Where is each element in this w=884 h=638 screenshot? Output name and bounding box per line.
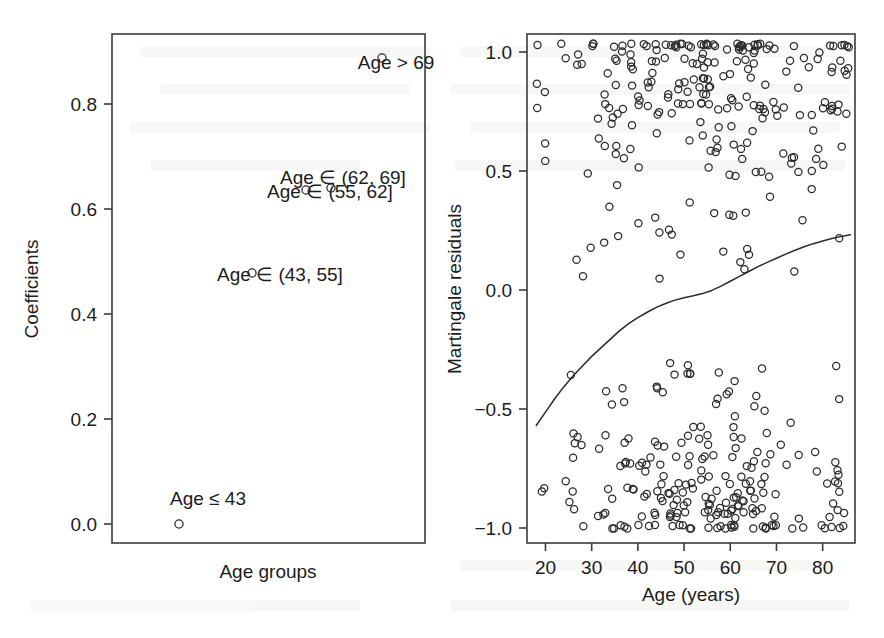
residual-point [704, 432, 711, 439]
figure-root: 0.0 0.2 0.4 0.6 0.8 Coefficients Age gro… [0, 0, 884, 638]
residual-point [740, 509, 747, 516]
residual-point [596, 445, 603, 452]
coefficient-label: Age ∈ (43, 55] [217, 264, 343, 285]
residual-point [534, 104, 541, 111]
residual-point [686, 100, 693, 107]
statistical-figure: 0.0 0.2 0.4 0.6 0.8 Coefficients Age gro… [0, 0, 884, 638]
residual-point [615, 233, 622, 240]
residual-point [722, 499, 729, 506]
residual-point [573, 256, 580, 263]
residual-point [614, 182, 621, 189]
residual-point [542, 140, 549, 147]
residual-point [686, 453, 693, 460]
left-y-tick-1: 0.2 [71, 409, 97, 430]
residual-point [742, 56, 749, 63]
residual-point [594, 115, 601, 122]
right-y-tick-0: 1.0 [486, 42, 512, 63]
residual-point [667, 360, 674, 367]
residual-point [643, 461, 650, 468]
residual-point [609, 495, 616, 502]
residual-point [627, 145, 634, 152]
residual-point [758, 481, 765, 488]
left-y-tick-4: 0.8 [71, 94, 97, 115]
coefficient-point [175, 520, 183, 528]
residual-point [761, 407, 768, 414]
residual-point [770, 98, 777, 105]
residual-point [735, 103, 742, 110]
residual-point [766, 173, 773, 180]
residual-point [724, 105, 731, 112]
residual-point [737, 259, 744, 266]
residual-point [649, 69, 656, 76]
residual-point [729, 97, 736, 104]
residual-point [730, 433, 737, 440]
residual-point [726, 480, 733, 487]
residual-point [750, 458, 757, 465]
residual-point [619, 385, 626, 392]
residual-point [738, 473, 745, 480]
residual-point [604, 70, 611, 77]
residual-point [762, 460, 769, 467]
left-plot-box [112, 34, 425, 543]
residual-point [671, 486, 678, 493]
residual-point [729, 454, 736, 461]
right-y-axis-title: Martingale residuals [444, 204, 465, 374]
residual-point [834, 507, 841, 514]
residual-point [608, 401, 615, 408]
residual-point [562, 478, 569, 485]
residual-point [682, 509, 689, 516]
residual-point [733, 58, 740, 65]
residual-point [763, 429, 770, 436]
residual-point [603, 388, 610, 395]
residual-point [601, 239, 608, 246]
residual-point [828, 68, 835, 75]
residual-point [780, 150, 787, 157]
residual-point [758, 365, 765, 372]
right-x-tick-label: 20 [535, 557, 556, 578]
residual-point [566, 498, 573, 505]
residual-point [673, 496, 680, 503]
residual-point [751, 495, 758, 502]
residual-point [783, 461, 790, 468]
residual-point [605, 485, 612, 492]
residual-point [837, 57, 844, 64]
right-x-tick-label: 50 [674, 557, 695, 578]
residual-point [578, 441, 585, 448]
residual-point [684, 432, 691, 439]
residual-point [760, 489, 767, 496]
residual-point [795, 515, 802, 522]
right-x-tick-label: 40 [627, 557, 648, 578]
right-x-tick-label: 30 [581, 557, 602, 578]
residual-point [808, 186, 815, 193]
residual-point [772, 491, 779, 498]
residual-point [580, 523, 587, 530]
residual-point [669, 522, 676, 529]
residual-point [574, 61, 581, 68]
residual-point [677, 251, 684, 258]
left-y-axis: 0.0 0.2 0.4 0.6 0.8 [71, 94, 112, 535]
residual-point [731, 378, 738, 385]
residual-point [711, 210, 718, 217]
residual-point [826, 513, 833, 520]
residual-point [713, 487, 720, 494]
residual-point [673, 453, 680, 460]
coefficient-label: Age ∈ (62, 69] [280, 167, 406, 188]
residual-point [799, 217, 806, 224]
right-y-tick-1: 0.5 [486, 161, 512, 182]
residual-point [835, 471, 842, 478]
residual-point [671, 371, 678, 378]
residual-point [674, 100, 681, 107]
residual-point [787, 419, 794, 426]
residual-point [625, 435, 632, 442]
residual-point [720, 73, 727, 80]
residual-point [644, 102, 651, 109]
residual-point [824, 480, 831, 487]
right-x-tick-label: 80 [812, 557, 833, 578]
residual-point [700, 64, 707, 71]
residual-point [745, 65, 752, 72]
left-point-labels: Age ≤ 43Age ∈ (43, 55]Age ∈ (55, 62]Age … [170, 52, 434, 509]
residual-point [690, 423, 697, 430]
residual-point [678, 439, 685, 446]
residual-point [715, 106, 722, 113]
residual-point [670, 502, 677, 509]
